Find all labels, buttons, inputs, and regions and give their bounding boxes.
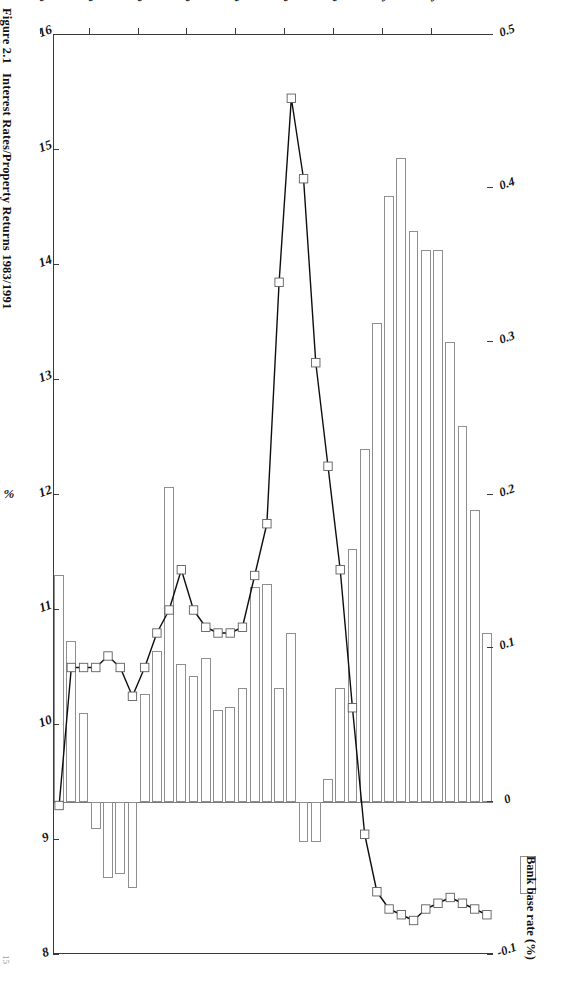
axis-tick-label: 0.5 [497, 21, 517, 40]
axis-tick-label: 15 [37, 137, 55, 156]
line-marker [104, 652, 112, 660]
line-marker [263, 520, 271, 528]
axis-tick [89, 28, 90, 34]
axis-tick [487, 34, 493, 35]
axis-tick [487, 187, 493, 188]
axis-tick-label: '84 [82, 0, 102, 7]
axis-tick [487, 954, 493, 955]
line-marker [202, 623, 210, 631]
line-marker [299, 175, 307, 183]
axis-tick-label: 13 [37, 367, 55, 386]
axis-tick [431, 28, 432, 34]
line-marker [238, 623, 246, 631]
axis-tick [333, 28, 334, 34]
line-marker [470, 905, 478, 913]
primary-value-axis-title: % [4, 486, 15, 502]
line-marker [275, 278, 283, 286]
figure-number: Figure 2.1 [0, 8, 14, 64]
line-marker [312, 359, 320, 367]
axis-tick-label: '85 [131, 0, 151, 7]
line-marker [324, 462, 332, 470]
axis-tick [186, 28, 187, 34]
line-marker [385, 905, 393, 913]
line-marker [153, 629, 161, 637]
axis-tick [487, 647, 493, 648]
line-marker [128, 692, 136, 700]
axis-tick-label: 10 [37, 712, 55, 731]
line-marker [55, 801, 63, 809]
line-marker [422, 905, 430, 913]
line-marker [360, 830, 368, 838]
line-marker [336, 566, 344, 574]
axis-tick [53, 609, 59, 610]
axis-tick-label: 12 [37, 482, 55, 501]
line-marker [92, 663, 100, 671]
axis-tick [487, 341, 493, 342]
axis-tick [53, 954, 59, 955]
plot-area [53, 34, 493, 954]
line-marker [226, 629, 234, 637]
axis-tick [40, 28, 41, 34]
line-marker [446, 893, 454, 901]
axis-tick-label: 0.3 [497, 328, 517, 347]
axis-tick [382, 28, 383, 34]
line-markers [55, 94, 491, 925]
line-marker [116, 663, 124, 671]
axis-tick-label: '87 [228, 0, 248, 7]
axis-tick-label: -0.1 [495, 940, 519, 961]
axis-tick-label: '88 [277, 0, 297, 7]
axis-tick [487, 494, 493, 495]
axis-tick-label: 11 [37, 597, 54, 616]
axis-tick-label: 0.1 [497, 634, 517, 653]
figure-title: Figure 2.1Interest Rates/Property Return… [0, 8, 14, 309]
line-marker [177, 566, 185, 574]
figure-title-text: Interest Rates/Property Returns 1983/199… [0, 73, 14, 310]
line-marker [67, 663, 75, 671]
line-marker [214, 629, 222, 637]
axis-tick-label: 0 [502, 791, 513, 807]
line-marker [373, 888, 381, 896]
line-marker [397, 911, 405, 919]
page-number: 15 [1, 955, 11, 964]
legend-label-bank-base-rate: Bank base rate (%) [523, 856, 538, 960]
axis-tick-label: 8 [40, 944, 52, 961]
bank-base-rate-line [59, 98, 487, 920]
line-marker [483, 911, 491, 919]
axis-tick-label: 9 [40, 829, 52, 846]
axis-tick [487, 801, 493, 802]
axis-tick-label: 0.2 [497, 481, 517, 500]
axis-tick [284, 28, 285, 34]
axis-tick-label: 0.4 [497, 174, 517, 193]
line-marker [189, 606, 197, 614]
axis-tick-label: '89 [326, 0, 346, 7]
line-marker [409, 916, 417, 924]
line-marker [434, 899, 442, 907]
line-marker [458, 899, 466, 907]
axis-tick-label: '86 [179, 0, 199, 7]
line-marker [79, 663, 87, 671]
axis-tick-label: '90 [375, 0, 395, 7]
line-marker [140, 663, 148, 671]
chart-stage: 1615141312111098 % 0.50.40.30.20.10-0.1 … [53, 34, 493, 954]
axis-tick [53, 839, 59, 840]
line-series [53, 35, 493, 955]
line-marker [165, 606, 173, 614]
axis-tick [138, 28, 139, 34]
line-marker [348, 704, 356, 712]
line-marker [250, 571, 258, 579]
line-marker [287, 94, 295, 102]
axis-tick [235, 28, 236, 34]
axis-tick-label: 14 [37, 252, 55, 271]
axis-tick-label: '83 [33, 0, 53, 7]
axis-tick-label: '91 [424, 0, 444, 7]
